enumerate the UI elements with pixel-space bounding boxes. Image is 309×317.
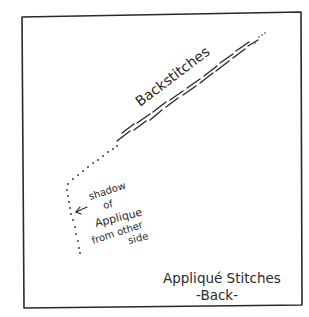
backstitches-label: Backstitches	[132, 43, 212, 109]
diagram-subtitle: -Back-	[196, 287, 238, 303]
shadow-annotation: shadow of Applique from other side	[87, 180, 149, 246]
shadow-label-line-2: of	[102, 198, 114, 211]
fabric-frame	[22, 12, 302, 308]
arrow-left-icon	[76, 207, 87, 214]
applique-stitches-diagram: Backstitches shadow of Applique	[0, 0, 309, 317]
diagram-title: Appliqué Stitches	[163, 270, 281, 286]
